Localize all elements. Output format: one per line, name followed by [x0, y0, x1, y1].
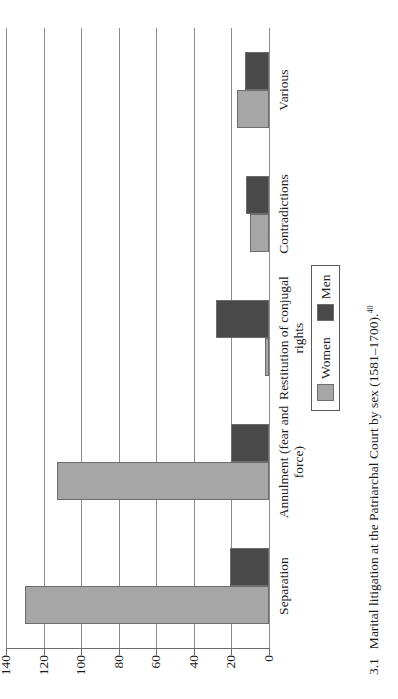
tick-mark-100: [81, 648, 82, 655]
tick-label-80: 80: [112, 655, 125, 699]
gridline-140: [6, 28, 7, 648]
bar-women-1: [57, 462, 269, 500]
value-axis-spine: [6, 648, 270, 649]
gridline-100: [81, 28, 82, 648]
bar-men-3: [246, 176, 269, 214]
legend-swatch-men-icon: [317, 304, 334, 321]
tick-label-40: 40: [187, 655, 200, 699]
bar-women-2: [265, 338, 269, 376]
bar-men-2: [216, 300, 269, 338]
bar-women-4: [237, 90, 269, 128]
tick-mark-120: [44, 648, 45, 655]
tick-label-140: 140: [0, 655, 12, 699]
plot-area: [6, 28, 269, 648]
tick-mark-40: [194, 648, 195, 655]
figure-page: Women Men 3.1Marital litigation at the P…: [0, 0, 398, 699]
gridline-80: [119, 28, 120, 648]
bar-women-0: [25, 586, 269, 624]
bar-chart-figure: Women Men 3.1Marital litigation at the P…: [0, 0, 398, 699]
tick-label-20: 20: [224, 655, 237, 699]
figure-number: 3.1: [366, 658, 381, 675]
bar-men-4: [245, 52, 269, 90]
bar-women-3: [250, 214, 269, 252]
legend-entry-men: Men: [317, 275, 334, 322]
tick-label-0: 0: [262, 655, 275, 699]
legend-swatch-women-icon: [317, 384, 334, 401]
bar-men-1: [231, 424, 269, 462]
category-label-1: Annulment (fear and force): [276, 400, 306, 524]
bar-men-0: [230, 548, 269, 586]
tick-mark-20: [231, 648, 232, 655]
gridline-40: [194, 28, 195, 648]
figure-caption: 3.1Marital litigation at the Patriarchal…: [366, 25, 382, 675]
category-label-2: Restitution of conjugal rights: [276, 276, 306, 400]
legend-label-men: Men: [319, 275, 333, 300]
gridline-120: [44, 28, 45, 648]
figure-footnote-marker: 40: [366, 306, 375, 314]
rotated-figure-container: Women Men 3.1Marital litigation at the P…: [0, 0, 398, 699]
tick-label-100: 100: [74, 655, 87, 699]
figure-caption-text: Marital litigation at the Patriarchal Co…: [366, 314, 381, 650]
tick-label-120: 120: [37, 655, 50, 699]
category-label-0: Separation: [276, 524, 291, 648]
tick-label-60: 60: [149, 655, 162, 699]
tick-mark-60: [156, 648, 157, 655]
tick-mark-80: [119, 648, 120, 655]
category-label-4: Various: [276, 28, 291, 152]
chart-legend: Women Men: [311, 265, 340, 411]
category-label-3: Contradictions: [276, 152, 291, 276]
gridline-60: [156, 28, 157, 648]
legend-entry-women: Women: [317, 337, 334, 401]
tick-mark-0: [269, 648, 270, 655]
legend-label-women: Women: [319, 337, 333, 379]
gridline-0: [269, 28, 270, 648]
tick-mark-140: [6, 648, 7, 655]
